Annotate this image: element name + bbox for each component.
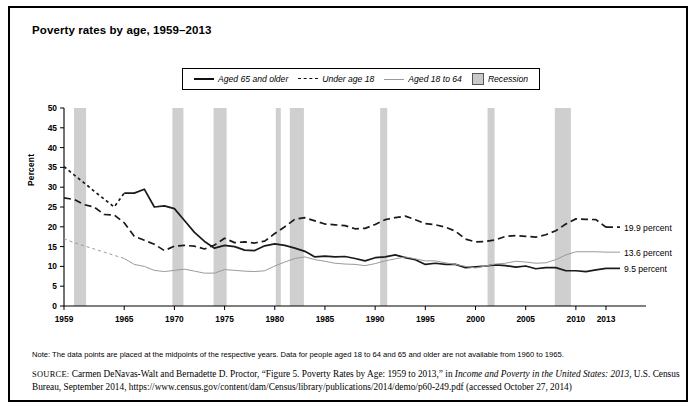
legend-item-label: Aged 18 to 64: [408, 74, 462, 84]
x-axis-tick-label: 1959: [55, 314, 74, 324]
x-axis-tick-label: 1990: [366, 314, 385, 324]
legend-item-recession: Recession: [472, 73, 528, 85]
series-end-label: 13.6 percent: [624, 248, 672, 258]
legend-item-label: Aged 65 and older: [218, 74, 288, 84]
y-axis-tick-label: 20: [48, 222, 58, 232]
recession-band: [276, 108, 281, 306]
recession-band: [214, 108, 227, 306]
legend-item-label: Under age 18: [322, 74, 374, 84]
source-prefix: SOURCE:: [32, 370, 69, 379]
x-axis-tick-label: 1965: [115, 314, 134, 324]
series-line: [64, 198, 606, 251]
figure-note: Note: The data points are placed at the …: [32, 350, 680, 360]
x-axis-tick-label: 2013: [597, 314, 616, 324]
legend-item-under-age-18: Under age 18: [298, 74, 374, 84]
legend-item-label: Recession: [488, 74, 528, 84]
series-line-interpolated: [64, 167, 124, 207]
recession-band: [74, 108, 86, 306]
y-axis-tick-label: 15: [48, 242, 58, 252]
chart-plot-area: 0510152025303540455019591965197019751980…: [28, 104, 684, 336]
x-axis-tick-label: 1980: [265, 314, 284, 324]
figure-frame: Poverty rates by age, 1959–2013 Aged 65 …: [8, 6, 688, 402]
series-line: [124, 252, 606, 273]
x-axis-tick-label: 2000: [466, 314, 485, 324]
recession-band: [380, 108, 387, 306]
y-axis-tick-label: 40: [48, 143, 58, 153]
legend-item-aged-65-and-older: Aged 65 and older: [194, 74, 288, 84]
figure-page: Poverty rates by age, 1959–2013 Aged 65 …: [0, 0, 696, 409]
y-axis-tick-label: 30: [48, 182, 58, 192]
y-axis-tick-label: 10: [48, 261, 58, 271]
recession-band: [488, 108, 495, 306]
recession-band: [555, 108, 571, 306]
y-axis-tick-label: 25: [48, 202, 58, 212]
poverty-rates-line-chart: 0510152025303540455019591965197019751980…: [28, 104, 684, 336]
series-line: [124, 189, 606, 271]
chart-legend: Aged 65 and older Under age 18 Aged 18 t…: [182, 68, 540, 90]
series-line-interpolated: [64, 239, 124, 259]
series-end-label: 19.9 percent: [624, 223, 672, 233]
x-axis-tick-label: 1975: [215, 314, 234, 324]
series-end-label: 9.5 percent: [624, 264, 668, 274]
y-axis-tick-label: 50: [48, 104, 58, 113]
page-title: Poverty rates by age, 1959–2013: [32, 24, 212, 36]
y-axis-tick-label: 45: [48, 123, 58, 133]
thin-line-swatch: [384, 75, 404, 83]
figure-source: SOURCE: Carmen DeNavas-Walt and Bernadet…: [32, 368, 682, 395]
y-axis-tick-label: 5: [52, 281, 57, 291]
recession-box-swatch: [472, 73, 484, 85]
x-axis-tick-label: 2010: [567, 314, 586, 324]
recession-band: [290, 108, 304, 306]
x-axis-tick-label: 1970: [165, 314, 184, 324]
source-text-part1: Carmen DeNavas-Walt and Bernadette D. Pr…: [69, 369, 454, 379]
y-axis-tick-label: 35: [48, 162, 58, 172]
dashed-line-swatch: [298, 75, 318, 83]
solid-line-swatch: [194, 75, 214, 83]
recession-band: [172, 108, 183, 306]
x-axis-tick-label: 1985: [316, 314, 335, 324]
source-publication-title: Income and Poverty in the United States:…: [455, 369, 629, 379]
x-axis-tick-label: 2005: [516, 314, 535, 324]
x-axis-tick-label: 1995: [416, 314, 435, 324]
legend-item-aged-18-to-64: Aged 18 to 64: [384, 74, 462, 84]
y-axis-tick-label: 0: [52, 301, 57, 311]
